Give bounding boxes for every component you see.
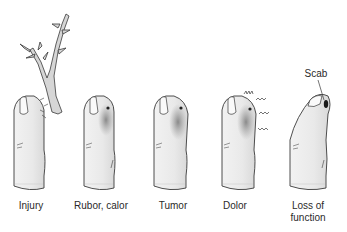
scab-label: Scab — [305, 68, 328, 80]
finger-dolor — [222, 96, 256, 190]
label-injury: Injury — [19, 200, 43, 212]
inflammation-diagram: Scab Injury Rubor, calor Tumor Dolor Los… — [0, 0, 347, 232]
diagram-artwork — [0, 0, 347, 232]
finger-rubor-calor — [84, 96, 115, 190]
finger-loss-of-function — [290, 94, 330, 189]
label-dolor: Dolor — [223, 200, 247, 212]
label-loss-of-function-line1: Loss of — [292, 200, 324, 212]
label-tumor: Tumor — [159, 200, 188, 212]
finger-tumor — [154, 96, 188, 190]
label-rubor-calor: Rubor, calor — [74, 200, 128, 212]
finger-injury — [14, 96, 48, 190]
label-loss-of-function-line2: function — [290, 212, 325, 224]
